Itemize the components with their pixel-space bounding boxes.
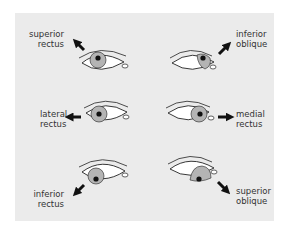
label-line: oblique [236, 196, 271, 206]
label-line: rectus [236, 119, 265, 129]
label-superior-oblique: superior oblique [236, 186, 271, 206]
arrow-down-right-icon [218, 182, 227, 191]
label-inferior-rectus: inferior rectus [28, 189, 64, 209]
label-line: rectus [28, 199, 64, 209]
label-medial-rectus: medial rectus [236, 109, 265, 129]
label-line: lateral [40, 109, 67, 119]
label-line: rectus [28, 39, 64, 49]
label-inferior-oblique: inferior oblique [236, 29, 267, 49]
eye-medial-rectus [166, 101, 214, 122]
eye-superior-rectus [79, 50, 128, 69]
label-line: inferior [28, 189, 64, 199]
arrow-down-left-icon [76, 185, 84, 193]
eye-inferior-rectus [79, 160, 128, 184]
label-line: superior [28, 29, 64, 39]
eye-inferior-oblique [170, 50, 216, 69]
label-line: medial [236, 109, 265, 119]
label-line: superior [236, 186, 271, 196]
label-line: rectus [40, 119, 67, 129]
label-line: oblique [236, 39, 267, 49]
eye-superior-oblique [168, 156, 217, 181]
arrow-up-right-icon [219, 45, 228, 54]
label-lateral-rectus: lateral rectus [40, 109, 67, 129]
eye-lateral-rectus [84, 101, 129, 122]
label-superior-rectus: superior rectus [28, 29, 64, 49]
arrow-up-left-icon [76, 42, 84, 50]
label-line: inferior [236, 29, 267, 39]
